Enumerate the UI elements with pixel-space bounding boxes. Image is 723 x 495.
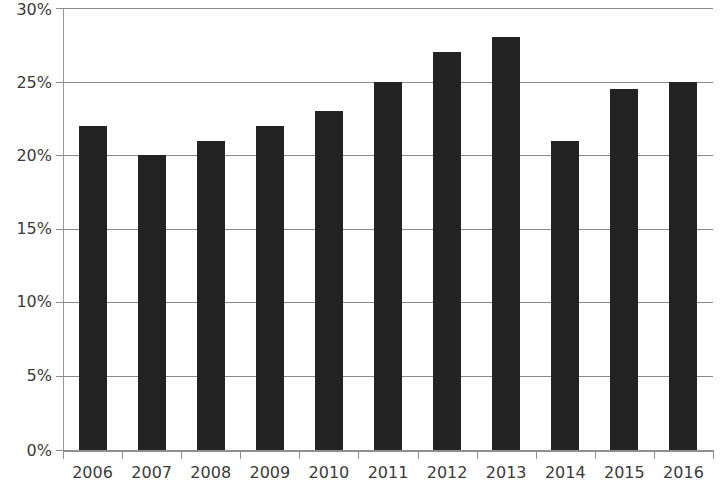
bar-2014 — [551, 141, 579, 450]
x-axis-tick-mark — [358, 450, 359, 459]
bar-2016 — [669, 82, 697, 450]
x-axis-tick-label: 2012 — [416, 463, 478, 482]
x-axis-tick-mark — [654, 450, 655, 459]
x-axis-tick-mark — [477, 450, 478, 459]
bar-2006 — [79, 126, 107, 450]
bar-2010 — [315, 111, 343, 450]
bar-2011 — [374, 82, 402, 450]
x-axis-tick-label: 2016 — [652, 463, 714, 482]
x-axis-tick-label: 2009 — [239, 463, 301, 482]
x-axis-tick-label: 2013 — [475, 463, 537, 482]
bar-2013 — [492, 37, 520, 450]
x-axis-tick-mark — [713, 450, 714, 459]
x-axis-tick-mark — [122, 450, 123, 459]
x-axis-tick-mark — [181, 450, 182, 459]
y-axis-tick-label: 30% — [0, 0, 52, 19]
x-axis-tick-label: 2010 — [298, 463, 360, 482]
bar-2009 — [256, 126, 284, 450]
x-axis-tick-mark — [63, 450, 64, 459]
bar-2015 — [610, 89, 638, 450]
y-axis-tick-label: 10% — [0, 292, 52, 311]
y-axis-tick-label: 5% — [0, 366, 52, 385]
y-axis-tick-label: 20% — [0, 146, 52, 165]
x-axis-tick-label: 2007 — [121, 463, 183, 482]
x-axis-tick-label: 2014 — [534, 463, 596, 482]
bar-2012 — [433, 52, 461, 450]
x-axis-tick-label: 2006 — [62, 463, 124, 482]
x-axis-tick-mark — [536, 450, 537, 459]
plot-area — [63, 8, 713, 450]
x-axis-line — [63, 450, 713, 452]
x-axis-tick-mark — [418, 450, 419, 459]
bar-2008 — [197, 141, 225, 450]
x-axis-tick-mark — [240, 450, 241, 459]
bar-chart: 30% 25% 20% 15% 10% 5% 0% 20062007200820… — [0, 0, 723, 495]
y-axis-tick-label: 15% — [0, 219, 52, 238]
gridline-30 — [63, 8, 713, 9]
bar-2007 — [138, 155, 166, 450]
x-axis-tick-label: 2008 — [180, 463, 242, 482]
y-axis-tick-label: 0% — [0, 441, 52, 460]
x-axis-tick-label: 2015 — [593, 463, 655, 482]
x-axis-tick-mark — [595, 450, 596, 459]
x-axis-tick-label: 2011 — [357, 463, 419, 482]
y-axis-labels: 30% 25% 20% 15% 10% 5% 0% — [0, 0, 52, 495]
x-axis-tick-mark — [299, 450, 300, 459]
y-axis-tick-label: 25% — [0, 73, 52, 92]
